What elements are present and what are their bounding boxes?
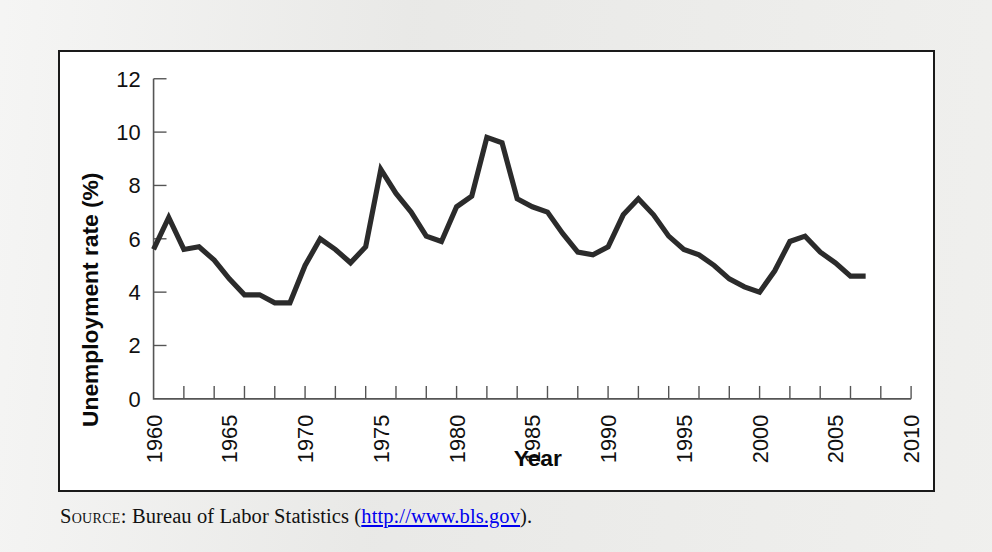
y-tick-label: 8 (128, 173, 140, 198)
x-tick-label: 1980 (445, 415, 470, 463)
x-tick-label: 1965 (217, 415, 242, 463)
x-tick-label: 1995 (672, 415, 697, 463)
chart-plot-area: 024681012 196019651970197519801985199019… (60, 52, 933, 490)
y-tick-label: 0 (128, 387, 140, 412)
x-tick-label: 1990 (596, 415, 621, 463)
unemployment-rate-polyline (154, 137, 866, 302)
source-text-before: Bureau of Labor Statistics ( (132, 505, 361, 527)
y-tick-label: 4 (128, 280, 140, 305)
y-axis-title: Unemployment rate (%) (77, 173, 103, 427)
x-tick-label: 1975 (369, 415, 394, 463)
x-tick-label: 1970 (293, 415, 318, 463)
y-tick-label: 6 (128, 227, 140, 252)
figure-panel: 024681012 196019651970197519801985199019… (58, 50, 935, 492)
y-axis-ticks (154, 79, 167, 346)
page-background: 024681012 196019651970197519801985199019… (0, 0, 992, 552)
source-label: Source: (60, 505, 127, 527)
y-tick-label: 10 (116, 120, 140, 145)
x-tick-label: 2010 (899, 415, 924, 463)
bls-gov-link[interactable]: http://www.bls.gov (361, 505, 520, 527)
source-text-after: ). (520, 505, 532, 527)
y-axis-tick-labels: 024681012 (116, 67, 140, 412)
x-tick-label: 2005 (823, 415, 848, 463)
data-series-line (154, 137, 866, 302)
unemployment-rate-line-chart: 024681012 196019651970197519801985199019… (60, 52, 933, 490)
x-axis-title: Year (514, 445, 562, 471)
x-tick-label: 1960 (141, 415, 166, 463)
y-tick-label: 2 (128, 333, 140, 358)
x-axis-ticks (184, 386, 911, 399)
x-tick-label: 2000 (748, 415, 773, 463)
source-caption: Source: Bureau of Labor Statistics (http… (60, 505, 532, 528)
y-tick-label: 12 (116, 67, 140, 92)
